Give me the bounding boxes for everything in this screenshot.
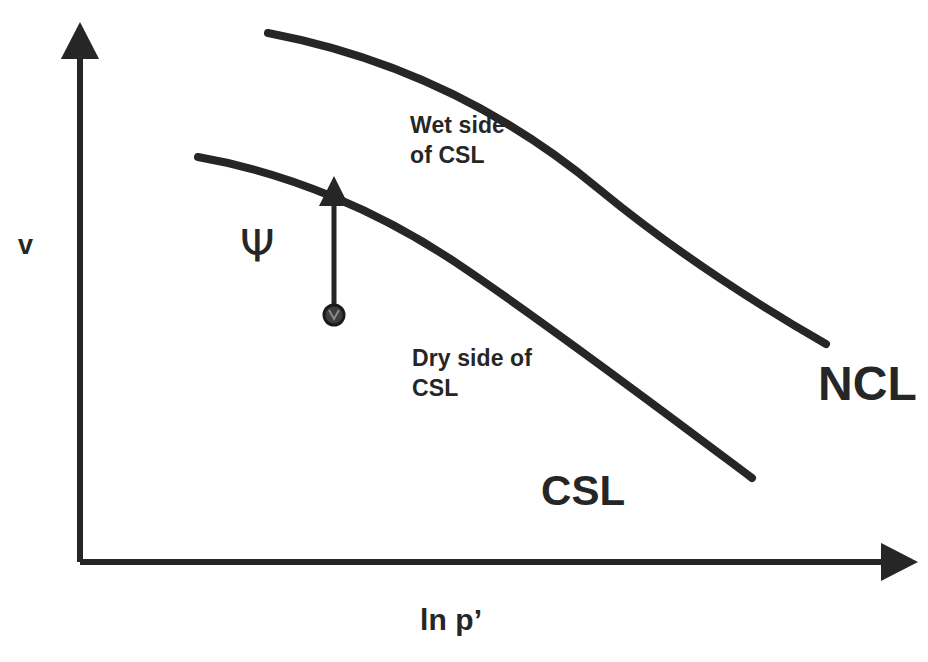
dry-side-annotation: Dry side of CSL xyxy=(412,343,532,404)
critical-state-diagram xyxy=(0,0,928,662)
ncl-curve-label: NCL xyxy=(818,352,917,415)
x-axis-label: ln p’ xyxy=(420,600,482,640)
csl-curve-label: CSL xyxy=(541,463,625,518)
psi-symbol-label: Ψ xyxy=(240,218,275,276)
state-point-marker xyxy=(324,305,344,325)
wet-side-annotation: Wet side of CSL xyxy=(410,110,505,171)
y-axis-label: v xyxy=(18,228,33,264)
csl-curve xyxy=(198,157,752,478)
ncl-curve xyxy=(268,33,826,344)
figure-canvas: v ln p’ Wet side of CSL Dry side of CSL … xyxy=(0,0,928,662)
